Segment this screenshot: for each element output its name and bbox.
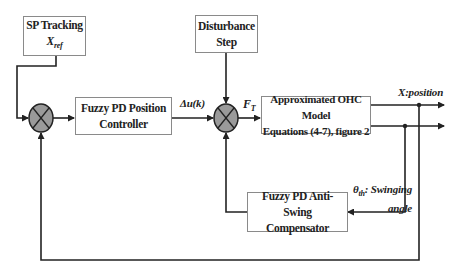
summing-junction-left	[29, 104, 53, 132]
reference-symbol: Xref	[47, 33, 63, 54]
position-output-label: X:position	[398, 86, 443, 98]
sp-tracking-block: SP Tracking Xref	[23, 16, 86, 56]
controller-line2: Controller	[99, 116, 148, 132]
angle-tap-dot	[403, 124, 407, 128]
disturbance-label: Disturbance	[198, 18, 255, 34]
theta-symbol: θth	[353, 183, 365, 195]
disturbance-step-block: Disturbance Step	[195, 15, 258, 53]
anti-swing-feedback-wire	[226, 133, 247, 212]
sp-tracking-title: SP Tracking	[26, 17, 83, 33]
controller-line1: Fuzzy PD Position	[81, 100, 166, 116]
fuzzy-pd-position-controller-block: Fuzzy PD Position Controller	[75, 97, 172, 135]
anti-swing-line1: Fuzzy PD Anti-Swing	[248, 188, 347, 220]
swinging-angle-label: θth: Swinging angle	[353, 182, 412, 215]
step-label: Step	[216, 34, 237, 50]
fuzzy-pd-anti-swing-compensator-block: Fuzzy PD Anti-Swing Compensator	[247, 192, 348, 232]
summing-junction-right	[214, 104, 238, 132]
ohc-model-line1: Approximated OHC Model	[262, 91, 370, 123]
delta-u-label: Δu(k)	[180, 97, 205, 109]
ohc-model-line2: Equations (4-7), figure 2	[263, 123, 370, 139]
force-label: FT	[243, 97, 256, 113]
ohc-model-block: Approximated OHC Model Equations (4-7), …	[261, 96, 371, 134]
anti-swing-line2: Compensator	[266, 220, 329, 236]
position-tap-dot	[417, 103, 421, 107]
